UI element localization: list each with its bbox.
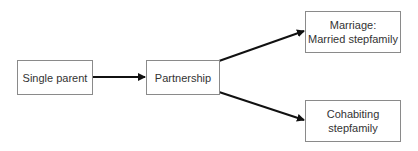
node-married-stepfamily: Marriage: Married stepfamily (305, 11, 401, 53)
node-label-line1: Cohabiting (327, 107, 380, 121)
node-label-line1: Marriage: (308, 18, 398, 32)
node-cohabiting-stepfamily: Cohabiting stepfamily (305, 100, 401, 142)
node-partnership: Partnership (146, 60, 220, 95)
arrow-partnership-to-cohabiting (219, 92, 304, 120)
node-label: Partnership (155, 71, 211, 85)
node-label-line2: Married stepfamily (308, 32, 398, 46)
node-label: Single parent (23, 71, 88, 85)
arrow-partnership-to-married (219, 31, 304, 61)
node-single-parent: Single parent (17, 60, 93, 95)
node-label-line2: stepfamily (327, 121, 380, 135)
